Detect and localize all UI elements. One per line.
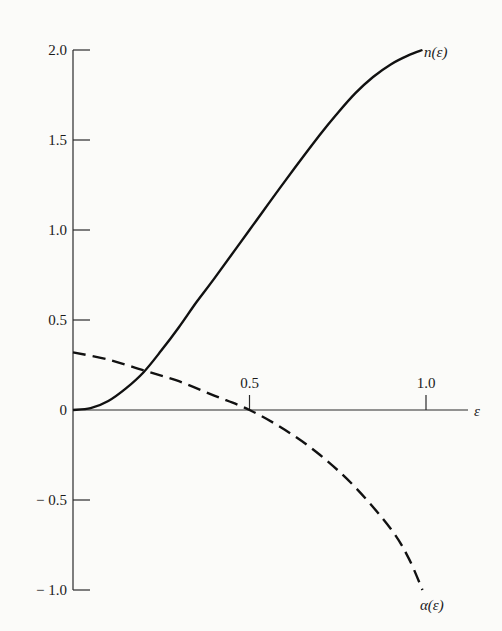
- series-label-alpha: α(ε): [420, 597, 444, 614]
- y-tick-label: 0: [60, 402, 68, 418]
- x-tick-label: 0.5: [240, 375, 259, 391]
- x-tick-label: 1.0: [417, 375, 436, 391]
- series-n-curve: [73, 50, 422, 410]
- x-axis-label: ε: [474, 403, 480, 419]
- y-tick-label: − 1.0: [36, 582, 67, 598]
- y-tick-label: − 0.5: [36, 492, 67, 508]
- series-group: [73, 50, 422, 590]
- y-tick-label: 1.5: [48, 132, 67, 148]
- x-axis-ticks: 0.51.0: [240, 375, 435, 410]
- axes: [73, 50, 468, 590]
- chart: 2.01.51.00.50− 0.5− 1.0 0.51.0 ε n(ε) α(…: [0, 0, 502, 631]
- series-label-n: n(ε): [424, 44, 447, 61]
- y-axis-ticks: 2.01.51.00.50− 0.5− 1.0: [36, 42, 90, 598]
- y-tick-label: 2.0: [48, 42, 67, 58]
- y-tick-label: 1.0: [48, 222, 67, 238]
- y-tick-label: 0.5: [48, 312, 67, 328]
